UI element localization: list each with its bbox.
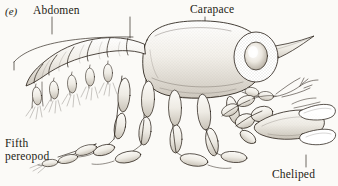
label-cheliped: Cheliped xyxy=(272,168,315,181)
eye xyxy=(234,32,278,82)
label-fifth-pereopod-line1: Fifth xyxy=(5,137,28,149)
panel-identifier: (e) xyxy=(5,5,17,17)
label-fifth-pereopod-line2: pereopod xyxy=(5,150,49,162)
figure-panel: (e) Abdomen Carapace Fifthpereopod Cheli… xyxy=(0,0,338,186)
crustacean-anatomy-illustration xyxy=(0,0,338,186)
label-carapace: Carapace xyxy=(190,3,234,16)
label-abdomen: Abdomen xyxy=(33,4,80,17)
label-fifth-pereopod: Fifthpereopod xyxy=(5,137,49,162)
